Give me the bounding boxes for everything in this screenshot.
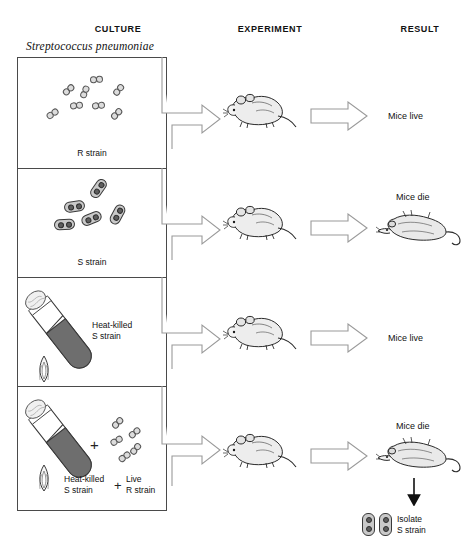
culture-panel-r-strain: R strain [17,57,167,169]
r-strain-cell [112,82,126,97]
result-label-2: Mice die [396,192,430,202]
s-strain-cell [88,177,109,201]
s-strain-cell [108,203,128,227]
flow-arrow-culture-to-mouse-4 [160,386,222,490]
r-strain-cell [109,434,125,447]
species-name-label: Streptococcus pneumoniae [26,40,154,52]
culture-label-r-strain: R strain [18,148,166,158]
r-strain-cell [90,76,104,84]
culture-panel-heat-killed-s-plus-live-r: + Heat-killed S strain + Live R strain [17,386,167,511]
live-mouse-illustration-4 [222,426,298,476]
result-label-3: Mice live [388,333,423,343]
column-header-culture: CULTURE [63,24,173,34]
heated-test-tube-1 [22,284,100,388]
flow-arrow-mouse-to-result-4 [310,441,368,475]
live-r-line2: R strain [126,485,155,495]
heat-killed-line1: Heat-killed [92,320,132,330]
r-strain-cell [45,107,60,121]
heat-killed-line2: S strain [92,331,121,341]
isolate-line2: S strain [397,525,426,535]
isolated-s-strain-cell [379,513,392,536]
r-strain-cell [92,101,107,109]
plus-symbol-cells: + [90,437,99,452]
griffith-experiment-diagram: CULTURE EXPERIMENT RESULT Streptococcus … [0,0,475,556]
heat-killed-line2: S strain [64,485,93,495]
heat-killed-line1: Heat-killed [64,474,104,484]
flow-arrow-mouse-to-result-1 [310,101,368,135]
live-mouse-illustration-1 [222,86,298,136]
culture-label-live-r: Live R strain [126,474,155,496]
live-mouse-illustration-2 [222,198,298,248]
culture-panel-s-strain: S strain [17,168,167,278]
bunsen-flame-icon [40,356,49,382]
r-strain-cell [110,106,125,121]
flow-arrow-culture-to-mouse-2 [160,168,222,264]
live-mouse-illustration-3 [222,308,298,358]
r-strain-cell [79,84,91,100]
plus-symbol-labels: + [114,479,122,492]
culture-panel-heat-killed-s: Heat-killed S strain [17,277,167,387]
column-header-experiment: EXPERIMENT [215,24,325,34]
culture-label-heat-killed-s-2: Heat-killed S strain [64,474,104,496]
s-strain-cell [54,218,76,230]
s-strain-cell [80,209,104,227]
culture-label-heat-killed-s: Heat-killed S strain [92,320,132,342]
result-label-1: Mice live [388,111,423,121]
result-label-4: Mice die [396,421,430,431]
isolate-line1: Isolate [397,514,422,524]
isolate-down-arrow [406,478,422,510]
s-strain-cell [63,200,85,214]
live-r-line1: Live [126,474,142,484]
r-strain-cell [117,450,132,464]
flow-arrow-mouse-to-result-3 [310,323,368,357]
flow-arrow-mouse-to-result-2 [310,213,368,247]
bunsen-flame-icon [40,465,49,491]
column-header-result: RESULT [372,24,468,34]
dead-mouse-illustration-2 [376,207,462,251]
r-strain-cell [61,82,76,97]
isolate-s-strain-label: Isolate S strain [397,514,426,535]
flow-arrow-culture-to-mouse-1 [160,57,222,153]
r-strain-cell [70,101,85,109]
dead-mouse-illustration-4 [376,434,462,478]
isolated-s-strain-cell [362,513,375,536]
culture-label-s-strain: S strain [18,257,166,267]
r-strain-cell [127,425,142,439]
r-strain-cell [111,415,126,430]
flow-arrow-culture-to-mouse-3 [160,277,222,373]
